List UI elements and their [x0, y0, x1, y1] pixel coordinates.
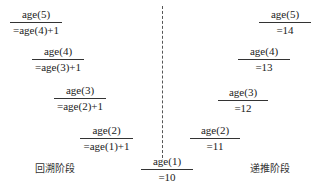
- fraction-bar: [80, 138, 133, 139]
- left-node-age5: age(5) =age(4)+1: [10, 8, 62, 37]
- node-top: age(4): [238, 45, 290, 58]
- fraction-bar: [259, 22, 311, 23]
- right-node-age3: age(3) =12: [218, 86, 268, 115]
- node-top: age(2): [80, 124, 133, 137]
- node-bottom: =14: [259, 24, 311, 37]
- node-top: age(2): [190, 124, 240, 137]
- node-bottom: =age(4)+1: [10, 24, 62, 37]
- right-node-age4: age(4) =13: [238, 45, 290, 74]
- fraction-bar: [218, 100, 268, 101]
- node-bottom: =age(1)+1: [80, 140, 133, 153]
- left-node-age2: age(2) =age(1)+1: [80, 124, 133, 153]
- node-top: age(4): [32, 45, 84, 58]
- node-top: age(5): [259, 8, 311, 21]
- node-bottom: =age(3)+1: [32, 61, 84, 74]
- node-top: age(3): [54, 84, 106, 97]
- fraction-bar: [32, 59, 84, 60]
- fraction-bar: [10, 22, 62, 23]
- fraction-bar: [190, 138, 240, 139]
- left-node-age3: age(3) =age(2)+1: [54, 84, 106, 113]
- node-bottom: =13: [238, 61, 290, 74]
- node-bottom: =10: [141, 171, 193, 184]
- center-node-age1: age(1) =10: [141, 155, 193, 184]
- node-bottom: =12: [218, 102, 268, 115]
- right-node-age2: age(2) =11: [190, 124, 240, 153]
- right-node-age5: age(5) =14: [259, 8, 311, 37]
- fraction-bar: [238, 59, 290, 60]
- left-node-age4: age(4) =age(3)+1: [32, 45, 84, 74]
- node-top: age(5): [10, 8, 62, 21]
- node-bottom: =age(2)+1: [54, 100, 106, 113]
- node-bottom: =11: [190, 140, 240, 153]
- fraction-bar: [141, 169, 193, 170]
- backtrack-phase-label: 回溯阶段: [35, 160, 75, 175]
- phase-divider-line: [162, 6, 163, 158]
- recurrence-phase-label: 递推阶段: [250, 160, 290, 175]
- fraction-bar: [54, 98, 106, 99]
- node-top: age(1): [141, 155, 193, 168]
- node-top: age(3): [218, 86, 268, 99]
